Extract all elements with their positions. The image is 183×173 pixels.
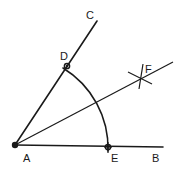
angle-bisector-diagram: A B C D E F <box>0 0 183 173</box>
label-f: F <box>145 63 152 75</box>
point-a-marker <box>12 142 18 148</box>
label-b: B <box>152 152 159 164</box>
ray-ac <box>15 21 97 145</box>
label-c: C <box>86 9 94 21</box>
arc-mark-f2 <box>139 64 143 89</box>
ray-ab <box>15 145 163 147</box>
label-a: A <box>23 152 31 164</box>
point-d-dot <box>66 65 68 67</box>
label-d: D <box>60 50 68 62</box>
label-e: E <box>111 152 118 164</box>
arc-de <box>63 68 108 151</box>
